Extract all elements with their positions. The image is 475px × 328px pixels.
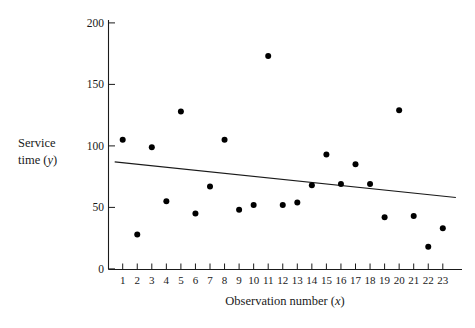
data-point xyxy=(222,137,228,143)
figure-caption-strip xyxy=(0,312,475,328)
y-axis-title: Service time (y) xyxy=(18,136,57,167)
y-axis-ticks: 0 50 100 150 200 xyxy=(87,17,115,275)
x-tick-label-12: 12 xyxy=(277,274,288,286)
data-point xyxy=(251,202,257,208)
data-point xyxy=(425,244,431,250)
data-point xyxy=(309,182,315,188)
x-tick-label-14: 14 xyxy=(306,274,318,286)
y-tick-label-150: 150 xyxy=(87,78,105,90)
x-tick-label-22: 22 xyxy=(423,274,434,286)
trend-line xyxy=(115,162,456,198)
data-point xyxy=(265,53,271,59)
scatter-plot-figure: 0 50 100 150 200 12345678910111213141516… xyxy=(0,0,475,328)
y-axis-title-suffix: ) xyxy=(53,153,57,167)
x-tick-label-18: 18 xyxy=(365,274,377,286)
x-axis-title-prefix: Observation number ( xyxy=(225,294,335,308)
x-axis-title-suffix: ) xyxy=(341,294,345,308)
data-point xyxy=(149,144,155,150)
x-tick-label-7: 7 xyxy=(207,274,213,286)
x-tick-label-1: 1 xyxy=(120,274,126,286)
y-tick-label-200: 200 xyxy=(87,17,105,29)
x-tick-label-6: 6 xyxy=(193,274,199,286)
data-point xyxy=(294,199,300,205)
x-axis-title: Observation number (x) xyxy=(225,294,344,308)
x-tick-label-20: 20 xyxy=(394,274,406,286)
data-point xyxy=(338,181,344,187)
y-axis-title-line1: Service xyxy=(18,136,56,150)
x-tick-label-17: 17 xyxy=(350,274,362,286)
data-point xyxy=(207,183,213,189)
x-tick-label-5: 5 xyxy=(178,274,184,286)
data-point xyxy=(120,137,126,143)
data-point-series xyxy=(120,53,446,250)
data-point xyxy=(353,161,359,167)
data-point xyxy=(411,213,417,219)
data-point xyxy=(134,231,140,237)
x-tick-label-16: 16 xyxy=(335,274,347,286)
x-tick-label-3: 3 xyxy=(149,274,155,286)
x-tick-label-9: 9 xyxy=(236,274,242,286)
x-tick-label-10: 10 xyxy=(248,274,260,286)
y-tick-label-0: 0 xyxy=(98,263,104,275)
x-tick-label-11: 11 xyxy=(263,274,274,286)
y-axis-title-line2: time (y) xyxy=(18,153,57,167)
data-point xyxy=(192,211,198,217)
data-point xyxy=(382,214,388,220)
data-point xyxy=(163,198,169,204)
x-axis-ticks: 1234567891011121314151617181920212223 xyxy=(120,264,449,287)
x-tick-label-4: 4 xyxy=(164,274,170,286)
data-point xyxy=(178,108,184,114)
chart-canvas: 0 50 100 150 200 12345678910111213141516… xyxy=(0,0,475,328)
y-axis-title-prefix: time ( xyxy=(18,153,48,167)
data-point xyxy=(323,152,329,158)
x-tick-label-23: 23 xyxy=(437,274,449,286)
x-tick-label-21: 21 xyxy=(408,274,419,286)
data-point xyxy=(367,181,373,187)
y-tick-label-50: 50 xyxy=(93,201,105,213)
y-tick-label-100: 100 xyxy=(87,140,105,152)
x-tick-label-15: 15 xyxy=(321,274,333,286)
x-tick-label-2: 2 xyxy=(135,274,141,286)
x-tick-label-19: 19 xyxy=(379,274,391,286)
data-point xyxy=(280,202,286,208)
data-point xyxy=(236,207,242,213)
data-point xyxy=(440,225,446,231)
data-point xyxy=(396,107,402,113)
x-tick-label-13: 13 xyxy=(292,274,304,286)
x-tick-label-8: 8 xyxy=(222,274,228,286)
